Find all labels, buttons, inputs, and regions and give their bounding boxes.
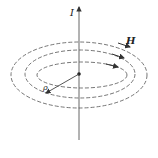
arrow-icon: [106, 64, 118, 67]
current-label: I: [69, 7, 75, 18]
radius-vector: [46, 74, 79, 93]
field-label: H: [125, 35, 136, 46]
radius-label: ρ: [42, 83, 48, 92]
arrow-icon: [112, 54, 124, 58]
field-diagram: I H ρ: [0, 0, 158, 158]
